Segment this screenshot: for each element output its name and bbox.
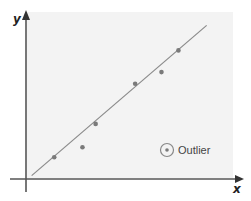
data-point — [52, 155, 57, 160]
scatter-chart: x y Outlier — [0, 0, 251, 201]
y-axis-label: y — [13, 12, 22, 26]
legend-label-outlier: Outlier — [178, 144, 211, 156]
outlier-dot-icon — [165, 148, 169, 152]
x-axis-label: x — [232, 182, 242, 196]
data-point — [80, 145, 85, 150]
data-point — [93, 122, 98, 127]
data-point — [176, 48, 181, 53]
data-point — [159, 70, 164, 75]
data-point — [133, 82, 138, 87]
